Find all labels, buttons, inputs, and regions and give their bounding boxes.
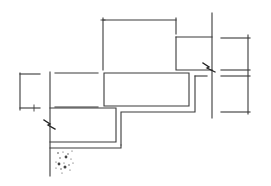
stair-section-drawing bbox=[0, 0, 271, 186]
left-dimension-lines bbox=[20, 73, 40, 111]
middle-step-top-lines bbox=[55, 73, 98, 107]
right-dimension-lines bbox=[221, 35, 250, 114]
lower-step bbox=[50, 108, 121, 148]
gravel-stipple bbox=[55, 150, 73, 173]
middle-step bbox=[104, 73, 207, 145]
top-dimension-lines bbox=[101, 18, 176, 70]
